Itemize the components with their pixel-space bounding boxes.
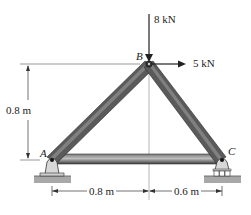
dimension-label-span-left: 0.8 m — [89, 185, 115, 197]
dimension-label-span-right: 0.6 m — [174, 185, 200, 197]
member-bc — [144, 61, 226, 163]
load-label-8kn: 8 kN — [154, 13, 176, 25]
node-label-a: A — [39, 147, 47, 159]
truss-diagram: 8 kN 5 kN B A C 0.8 m 0.8 m 0.6 m — [0, 0, 251, 215]
ground-c — [204, 176, 241, 183]
load-arrow-8kn — [145, 14, 153, 62]
member-ac — [52, 154, 222, 164]
member-ab — [47, 61, 154, 163]
node-label-c: C — [228, 145, 236, 157]
load-label-5kn: 5 kN — [193, 57, 215, 69]
dimension-label-height: 0.8 m — [6, 104, 32, 116]
ground-a — [34, 176, 71, 183]
node-label-b: B — [136, 50, 143, 62]
